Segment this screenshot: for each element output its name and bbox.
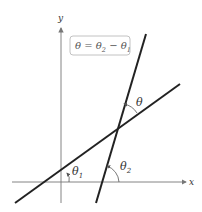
x-axis-label: x <box>189 177 194 187</box>
theta1-label: θ1 <box>72 165 83 180</box>
line-2 <box>96 34 146 203</box>
line-1 <box>15 84 180 203</box>
theta-label: θ <box>136 96 143 109</box>
theta2-label: θ2 <box>120 160 132 175</box>
theta2-arc <box>107 166 119 182</box>
angle-diagram: x y θ1 θ2 θ θ = θ2 − θ1 <box>0 0 202 212</box>
y-axis-label: y <box>57 13 64 23</box>
theta1-arc <box>67 173 69 182</box>
